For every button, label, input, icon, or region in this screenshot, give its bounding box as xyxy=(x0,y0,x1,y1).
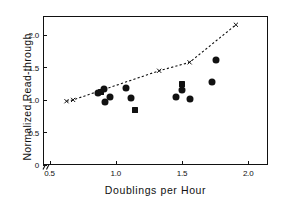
plot-frame xyxy=(43,16,268,165)
chart-figure: Normalized Read-through Doublings per Ho… xyxy=(0,0,284,204)
x-tick-mark xyxy=(182,161,183,165)
data-point-circle xyxy=(209,78,216,85)
data-point-square xyxy=(132,107,138,113)
trend-dashed-line xyxy=(67,25,236,101)
data-point-circle xyxy=(128,94,135,101)
data-point-circle xyxy=(178,87,185,94)
y-tick-mark xyxy=(43,132,47,133)
x-tick-label: 1.5 xyxy=(177,169,188,178)
data-point-circle xyxy=(123,84,130,91)
data-point-circle xyxy=(173,94,180,101)
y-tick-label: 1.5 xyxy=(15,63,39,72)
y-tick-label: 0 xyxy=(15,161,39,170)
x-tick-mark xyxy=(50,161,51,165)
data-point-square xyxy=(179,81,185,87)
data-point-circle xyxy=(213,57,220,64)
plot-area xyxy=(44,17,267,164)
y-tick-mark xyxy=(43,164,47,165)
data-point-circle xyxy=(186,95,193,102)
y-tick-label: 2.0 xyxy=(15,31,39,40)
x-axis-title: Doublings per Hour xyxy=(43,184,268,196)
x-tick-label: 2.0 xyxy=(243,169,254,178)
data-point-circle xyxy=(107,94,114,101)
trend-x-marker xyxy=(234,23,238,27)
trend-line-svg xyxy=(44,17,269,166)
x-tick-mark xyxy=(248,161,249,165)
y-tick-mark xyxy=(43,67,47,68)
y-tick-mark xyxy=(43,100,47,101)
y-tick-mark xyxy=(43,35,47,36)
data-point-square xyxy=(98,89,104,95)
y-tick-label: 0.5 xyxy=(15,128,39,137)
x-tick-label: 0.5 xyxy=(44,169,55,178)
y-tick-label: 1.0 xyxy=(15,96,39,105)
x-tick-mark xyxy=(116,161,117,165)
x-tick-label: 1.0 xyxy=(111,169,122,178)
